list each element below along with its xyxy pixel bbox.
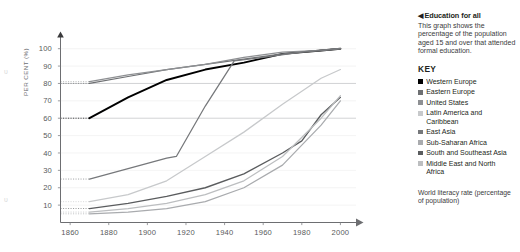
legend-label: Sub-Saharan Africa: [426, 139, 514, 147]
legend-label: Western Europe: [426, 78, 514, 86]
x-axis-arrowhead: [356, 219, 364, 227]
y-tick-label: 20: [30, 183, 52, 192]
x-tick-label: 1880: [92, 228, 126, 237]
legend-swatch: [418, 130, 423, 135]
x-tick-label: 1920: [169, 228, 203, 237]
side-panel: ◀Education for all This graph shows the …: [418, 0, 520, 252]
x-tick-label: 1900: [130, 228, 164, 237]
y-axis-arrowhead: [57, 32, 64, 38]
panel-description: This graph shows the percentage of the p…: [418, 22, 518, 56]
x-tick-label: 1940: [208, 228, 242, 237]
legend-swatch: [418, 79, 423, 84]
legend-item[interactable]: Eastern Europe: [418, 88, 520, 96]
y-tick-label: 80: [30, 79, 52, 88]
panel-title: ◀Education for all: [418, 11, 520, 20]
figure-education-for-all: ᴜ ᴜ PER CENT (%) 102030405060708090100 1…: [0, 0, 520, 252]
chart-footnote: World literacy rate (percentage of popul…: [418, 189, 518, 205]
legend-label: East Asia: [426, 128, 514, 136]
legend-item[interactable]: South and Southeast Asia: [418, 149, 520, 157]
legend-swatch: [418, 90, 423, 95]
legend-label: Eastern Europe: [426, 88, 514, 96]
legend-swatch: [418, 111, 423, 116]
legend-label: Latin America and Caribbean: [426, 109, 514, 126]
x-tick-label: 2000: [323, 228, 357, 237]
legend-swatch: [418, 100, 423, 105]
legend-item[interactable]: United States: [418, 99, 520, 107]
legend-item[interactable]: Latin America and Caribbean: [418, 109, 520, 126]
y-tick-label: 100: [30, 44, 52, 53]
legend-item[interactable]: Middle East and North Africa: [418, 160, 520, 177]
x-tick-label: 1980: [285, 228, 319, 237]
chart-plot: [0, 0, 372, 252]
panel-title-text: Education for all: [424, 11, 480, 20]
series-lines: [61, 49, 341, 214]
y-tick-label: 50: [30, 131, 52, 140]
left-caret-icon: ◀: [418, 12, 423, 19]
x-tick-label: 1860: [53, 228, 87, 237]
y-tick-label: 90: [30, 62, 52, 71]
legend-item[interactable]: Western Europe: [418, 78, 520, 86]
x-tick-label: 1960: [246, 228, 280, 237]
legend-item[interactable]: East Asia: [418, 128, 520, 136]
legend-label: Middle East and North Africa: [426, 160, 514, 177]
legend-item[interactable]: Sub-Saharan Africa: [418, 139, 520, 147]
legend-label: United States: [426, 99, 514, 107]
legend-swatch: [418, 140, 423, 145]
legend-swatch: [418, 161, 423, 166]
y-tick-label: 10: [30, 201, 52, 210]
key-heading: KEY: [418, 64, 520, 74]
y-tick-label: 40: [30, 149, 52, 158]
y-tick-label: 70: [30, 96, 52, 105]
line-chart: PER CENT (%) 102030405060708090100 18601…: [0, 0, 372, 252]
y-tick-label: 30: [30, 166, 52, 175]
legend-label: South and Southeast Asia: [426, 149, 514, 157]
y-tick-label: 60: [30, 114, 52, 123]
legend-swatch: [418, 151, 423, 156]
legend-list: Western EuropeEastern EuropeUnited State…: [418, 78, 520, 176]
